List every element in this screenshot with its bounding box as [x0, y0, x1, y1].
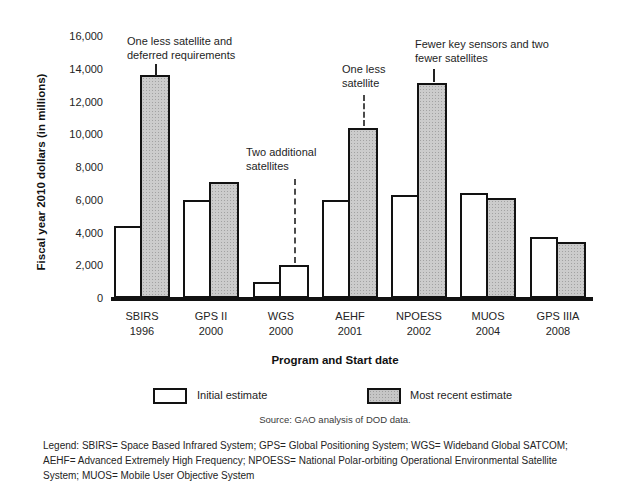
- x-axis-category-label: MUOS2004: [453, 309, 523, 338]
- annotation-leader-dashed: [294, 179, 296, 263]
- y-axis-tick-label: 4,000: [41, 227, 103, 239]
- annotation-leader-dashed: [363, 95, 365, 126]
- abbreviation-legend-line: System; MUOS= Mobile User Objective Syst…: [43, 468, 598, 483]
- x-axis-category-label: SBIRS1996: [107, 309, 177, 338]
- category-text: MUOS: [453, 309, 523, 324]
- y-axis-tick-label: 10,000: [41, 128, 103, 140]
- annotation-leader-solid: [155, 64, 157, 76]
- y-axis-tick-label: 6,000: [41, 194, 103, 206]
- abbreviation-legend: Legend: SBIRS= Space Based Infrared Syst…: [43, 438, 598, 483]
- annotation-text: deferred requirements: [127, 49, 235, 63]
- bar-npoess-initial: [391, 195, 419, 298]
- category-text: 2000: [246, 324, 316, 339]
- bar-muos-recent: [486, 198, 516, 298]
- y-axis-tick-label: 12,000: [41, 96, 103, 108]
- bar-gps-ii-initial: [183, 200, 211, 298]
- x-axis-category-label: NPOESS2002: [384, 309, 454, 338]
- bar-gps-iiia-initial: [530, 237, 558, 298]
- annotation-text: fewer satellites: [415, 52, 549, 66]
- category-text: 2008: [523, 324, 593, 339]
- x-axis-title: Program and Start date: [100, 354, 570, 366]
- x-axis-category-label: GPS IIIA2008: [523, 309, 593, 338]
- annotation-text: Fewer key sensors and two: [415, 38, 549, 52]
- category-text: 2002: [384, 324, 454, 339]
- y-axis-tick-label: 0: [41, 292, 103, 304]
- bar-sbirs-recent: [140, 75, 170, 298]
- x-axis-category-label: GPS II2000: [176, 309, 246, 338]
- category-text: 2004: [453, 324, 523, 339]
- annotation-npoess: Fewer key sensors and twofewer satellite…: [415, 38, 549, 65]
- category-text: 2000: [176, 324, 246, 339]
- bar-wgs-recent: [279, 265, 309, 298]
- source-note: Source: GAO analysis of DOD data.: [100, 414, 570, 425]
- most-recent-estimate-label: Most recent estimate: [410, 387, 512, 404]
- abbreviation-legend-line: AEHF= Advanced Extremely High Frequency;…: [43, 453, 598, 468]
- y-axis-tick-label: 16,000: [41, 30, 103, 42]
- initial-estimate-label: Initial estimate: [197, 387, 267, 404]
- category-text: GPS II: [176, 309, 246, 324]
- annotation-text: One less: [342, 63, 385, 77]
- bar-gps-iiia-recent: [556, 242, 586, 298]
- category-text: 2001: [315, 324, 385, 339]
- bar-sbirs-initial: [114, 226, 142, 298]
- gao-cost-estimate-bar-chart: Fiscal year 2010 dollars (in millions) P…: [0, 0, 623, 483]
- annotation-text: satellites: [246, 160, 316, 174]
- x-axis-category-label: AEHF2001: [315, 309, 385, 338]
- bar-npoess-recent: [417, 83, 447, 298]
- annotation-text: One less satellite and: [127, 35, 235, 49]
- initial-estimate-swatch: [153, 388, 187, 404]
- bar-aehf-initial: [322, 200, 350, 298]
- annotation-sbirs: One less satellite anddeferred requireme…: [127, 35, 235, 62]
- y-axis-tick-label: 2,000: [41, 259, 103, 271]
- category-text: WGS: [246, 309, 316, 324]
- x-axis-category-label: WGS2000: [246, 309, 316, 338]
- bar-muos-initial: [460, 193, 488, 298]
- y-axis-tick-label: 8,000: [41, 161, 103, 173]
- category-text: AEHF: [315, 309, 385, 324]
- abbreviation-legend-line: Legend: SBIRS= Space Based Infrared Syst…: [43, 438, 598, 453]
- category-text: 1996: [107, 324, 177, 339]
- most-recent-estimate-swatch: [367, 388, 401, 404]
- bar-gps-ii-recent: [209, 182, 239, 298]
- bar-aehf-recent: [348, 128, 378, 298]
- bar-wgs-initial: [253, 282, 281, 298]
- y-axis-tick-label: 14,000: [41, 63, 103, 75]
- annotation-wgs: Two additionalsatellites: [246, 146, 316, 173]
- category-text: SBIRS: [107, 309, 177, 324]
- annotation-text: Two additional: [246, 146, 316, 160]
- category-text: NPOESS: [384, 309, 454, 324]
- category-text: GPS IIIA: [523, 309, 593, 324]
- annotation-leader-solid: [433, 69, 435, 82]
- annotation-aehf: One lesssatellite: [342, 63, 385, 90]
- annotation-text: satellite: [342, 77, 385, 91]
- x-axis-baseline: [111, 297, 593, 301]
